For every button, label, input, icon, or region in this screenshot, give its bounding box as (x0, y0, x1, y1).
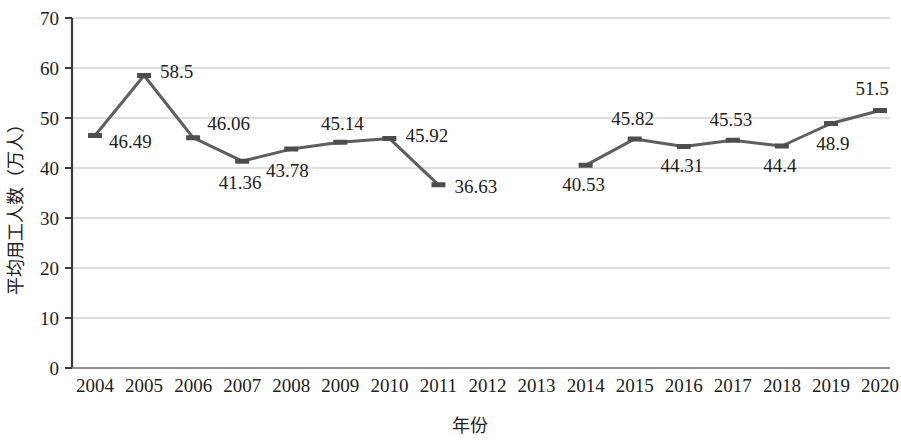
y-tick-label: 70 (40, 8, 59, 29)
x-tick-label: 2015 (616, 375, 654, 396)
data-point-marker (677, 144, 691, 149)
x-tick-label: 2012 (469, 375, 507, 396)
data-value-label: 46.49 (109, 131, 152, 152)
y-tick-label: 10 (40, 308, 59, 329)
x-tick-label: 2013 (518, 375, 556, 396)
y-tick-label: 60 (40, 58, 59, 79)
x-tick-label: 2020 (861, 375, 899, 396)
x-tick-label: 2008 (272, 375, 310, 396)
data-value-label: 51.5 (855, 78, 888, 99)
x-tick-label: 2006 (174, 375, 212, 396)
data-value-label: 48.9 (816, 133, 849, 154)
x-tick-label: 2010 (370, 375, 408, 396)
x-tick-label: 2004 (76, 375, 115, 396)
y-tick-label: 20 (40, 258, 59, 279)
data-point-marker (824, 121, 838, 126)
data-point-marker (235, 159, 249, 164)
y-axis-title: 平均用工人数（万人） (6, 115, 26, 295)
x-tick-label: 2014 (567, 375, 606, 396)
data-value-label: 45.82 (611, 108, 654, 129)
data-value-label: 36.63 (454, 176, 497, 197)
data-point-marker (775, 144, 789, 149)
line-chart: 010203040506070 46.4958.546.0641.3643.78… (0, 0, 901, 441)
x-tick-label: 2011 (420, 375, 457, 396)
data-value-label: 43.78 (266, 160, 309, 181)
data-value-label: 41.36 (219, 172, 262, 193)
x-tick-label: 2009 (321, 375, 359, 396)
data-point-marker (88, 133, 102, 138)
data-point-marker (579, 163, 593, 168)
x-tick-label: 2017 (714, 375, 752, 396)
data-point-marker (333, 140, 347, 145)
y-tick-label: 0 (50, 358, 60, 379)
data-value-label: 44.4 (763, 155, 797, 176)
y-tick-label: 50 (40, 108, 59, 129)
data-value-label: 45.92 (405, 125, 448, 146)
data-point-marker (137, 73, 151, 78)
data-value-label: 58.5 (160, 61, 193, 82)
x-axis-title: 年份 (452, 416, 488, 436)
data-point-marker (382, 136, 396, 141)
data-point-marker (628, 136, 642, 141)
x-tick-label: 2016 (665, 375, 703, 396)
x-tick-label: 2019 (812, 375, 850, 396)
data-point-marker (186, 135, 200, 140)
x-tick-label: 2005 (125, 375, 163, 396)
chart-canvas: 010203040506070 46.4958.546.0641.3643.78… (0, 0, 901, 441)
y-tick-label: 40 (40, 158, 59, 179)
data-value-label: 45.53 (709, 109, 752, 130)
y-tick-label: 30 (40, 208, 59, 229)
data-point-marker (726, 138, 740, 143)
x-tick-label: 2007 (223, 375, 261, 396)
data-value-label: 46.06 (207, 113, 250, 134)
data-value-label: 44.31 (660, 155, 703, 176)
x-tick-label: 2018 (763, 375, 801, 396)
data-point-marker (431, 182, 445, 187)
x-tick-labels-group: 2004200520062007200820092010201120122013… (76, 375, 899, 396)
data-value-label: 40.53 (562, 174, 605, 195)
data-point-marker (284, 147, 298, 152)
data-point-marker (873, 108, 887, 113)
data-value-label: 45.14 (321, 113, 364, 134)
